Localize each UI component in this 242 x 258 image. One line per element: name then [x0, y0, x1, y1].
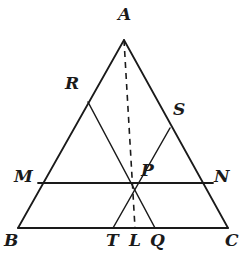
point-label-A: A [118, 6, 131, 23]
point-label-T: T [106, 232, 119, 249]
point-label-Q: Q [150, 232, 165, 249]
point-label-P: P [141, 162, 154, 179]
point-label-L: L [129, 232, 141, 249]
point-label-M: M [14, 168, 33, 185]
geometry-canvas [0, 0, 242, 258]
point-label-R: R [65, 75, 79, 92]
point-label-S: S [173, 101, 185, 118]
point-label-C: C [225, 232, 239, 249]
point-label-B: B [4, 232, 18, 249]
side-AB [18, 40, 124, 228]
point-label-N: N [214, 168, 230, 185]
geometry-figure: A R S M P N B T L Q C [0, 0, 242, 258]
